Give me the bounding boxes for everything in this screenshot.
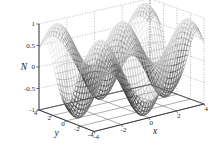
x-tick-label: -2 <box>121 126 127 134</box>
y-tick-label: 2 <box>48 114 52 122</box>
mesh-surface <box>39 3 204 117</box>
x-tick-label: -4 <box>93 133 99 141</box>
x-tick-label: 2 <box>177 112 181 120</box>
y-tick-label: -2 <box>74 125 80 133</box>
y-tick-label: 0 <box>61 120 65 128</box>
z-axis-label: N <box>20 62 28 72</box>
surface-plot-3d: 10.50-0.5-1420-2-4-4-2024 Nyx <box>0 0 216 159</box>
z-tick-label: 1 <box>32 20 36 28</box>
z-tick-label: 0.5 <box>26 42 35 50</box>
y-tick-label: 4 <box>34 109 38 117</box>
y-axis-label: y <box>53 128 59 138</box>
figure-container: 10.50-0.5-1420-2-4-4-2024 Nyx <box>0 0 216 159</box>
x-axis-label: x <box>152 126 158 136</box>
x-tick-label: 4 <box>204 105 208 113</box>
z-tick-label: 0 <box>32 63 36 71</box>
z-tick-label: -0.5 <box>24 85 36 93</box>
